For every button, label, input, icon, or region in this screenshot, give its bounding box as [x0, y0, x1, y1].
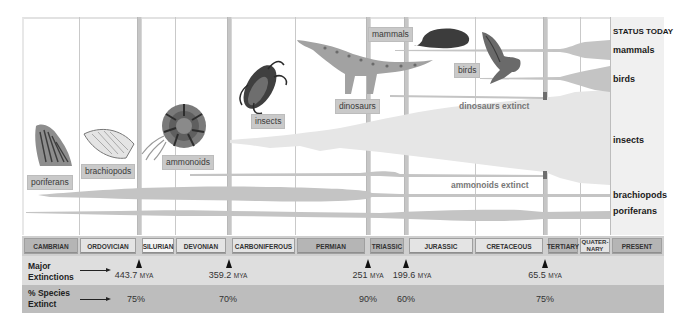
- period-cretaceous: CRETACEOUS: [475, 238, 543, 254]
- ammonoids-band: [190, 171, 543, 177]
- species-extinct-label: % Species Extinct: [28, 288, 70, 310]
- arrow-icon: [80, 270, 108, 271]
- poriferans-band: [26, 210, 610, 221]
- major-extinctions-label: Major Extinctions: [28, 261, 74, 283]
- period-triassic: TRIASSIC: [370, 238, 404, 254]
- period-devonian: DEVONIAN: [176, 238, 226, 254]
- extinction-mya-3: 251 MYA: [352, 270, 383, 280]
- status-poriferans: poriferans: [613, 206, 657, 216]
- arrow-icon: [80, 299, 108, 300]
- period-present: PRESENT: [612, 238, 662, 254]
- period-cambrian: CAMBRIAN: [24, 238, 78, 254]
- extinction-marker-icon: [403, 259, 409, 268]
- extinction-percent-5: 75%: [536, 294, 554, 304]
- tag-ammonoids: ammonoids: [162, 155, 214, 170]
- species-extinct-row: % Species Extinct: [22, 285, 664, 313]
- status-brachiopods: brachiopods: [613, 190, 667, 200]
- extinction-marker-icon: [226, 259, 232, 268]
- period-silurian: SILURIAN: [142, 238, 174, 254]
- ammonoids-extinct-note: ammonoids extinct: [451, 180, 528, 190]
- extinction-percent-3: 90%: [359, 294, 377, 304]
- period-carboniferous: CARBONIFEROUS: [232, 238, 295, 254]
- ammonoids-extinct-marker: [543, 171, 547, 179]
- period-tertiary: TERTIARY: [548, 238, 578, 254]
- tag-insects: insects: [251, 114, 285, 129]
- brachiopod-illustration: [82, 126, 136, 162]
- tag-brachiopods: brachiopods: [81, 164, 135, 179]
- tag-mammals: mammals: [368, 27, 413, 42]
- status-birds: birds: [613, 74, 635, 84]
- dinosaurs-extinct-marker: [543, 92, 547, 100]
- extinction-mya-2: 359.2 MYA: [209, 270, 248, 280]
- status-insects: insects: [613, 135, 644, 145]
- period-ordovician: ORDOVICIAN: [80, 238, 136, 254]
- extinction-mya-5: 65.5 MYA: [528, 270, 562, 280]
- poriferan-illustration: [32, 122, 74, 170]
- extinction-marker-icon: [542, 259, 548, 268]
- period-quaternary: QUATER-NARY: [580, 238, 610, 254]
- tag-birds: birds: [454, 63, 480, 78]
- extinction-percent-2: 70%: [219, 294, 237, 304]
- tag-dinosaurs: dinosaurs: [335, 99, 380, 114]
- extinction-marker-icon: [136, 259, 142, 268]
- dinosaurs-extinct-note: dinosaurs extinct: [459, 101, 529, 111]
- insect-illustration: [234, 55, 292, 117]
- evolution-timeline-diagram: poriferans brachiopods ammonoids insects…: [0, 0, 690, 327]
- extinction-mya-1: 443.7 MYA: [115, 270, 154, 280]
- ammonoid-illustration: [140, 102, 212, 162]
- bird-illustration: [478, 30, 526, 88]
- extinction-marker-icon: [365, 259, 371, 268]
- extinction-percent-4: 60%: [397, 294, 415, 304]
- period-permian: PERMIAN: [297, 238, 365, 254]
- period-jurassic: JURASSIC: [409, 238, 473, 254]
- geologic-period-bar: CAMBRIAN ORDOVICIAN SILURIAN DEVONIAN CA…: [22, 236, 664, 256]
- status-today-title: STATUS TODAY: [613, 27, 673, 36]
- extinction-mya-4: 199.6 MYA: [393, 270, 432, 280]
- extinction-percent-1: 75%: [127, 294, 145, 304]
- status-mammals: mammals: [613, 45, 655, 55]
- mammal-illustration: [410, 25, 472, 51]
- tag-poriferans: poriferans: [27, 175, 73, 190]
